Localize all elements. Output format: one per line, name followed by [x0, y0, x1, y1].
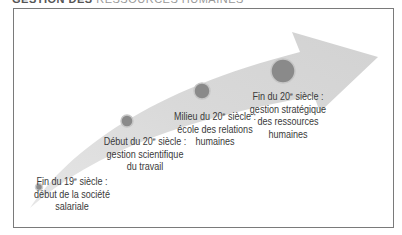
- milestone-label-4: Fin du 20e siècle : gestion stratégique …: [249, 88, 326, 140]
- milestone-dot-2: [121, 115, 133, 127]
- milestone-dot-4: [271, 59, 295, 83]
- milestone-dot-3: [194, 83, 210, 99]
- milestone-label-3: Milieu du 20e siècle : école des relatio…: [168, 108, 263, 148]
- milestone-label-1: Fin du 19e siècle : début de la société …: [29, 173, 115, 213]
